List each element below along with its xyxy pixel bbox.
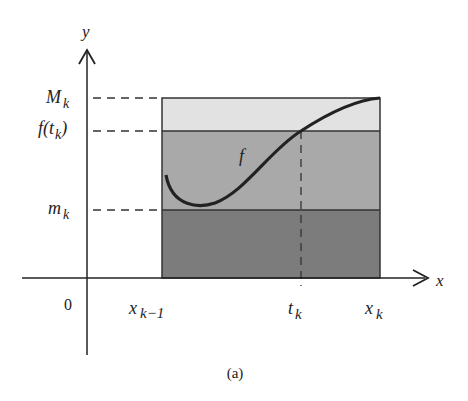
Mk-label: Mk — [45, 87, 70, 111]
f-tk-label: f(tk) — [38, 118, 67, 142]
lower-band — [162, 210, 380, 278]
x-axis-label: x — [435, 271, 444, 290]
upper-band — [162, 98, 380, 131]
mk-label: mk — [48, 198, 70, 222]
riemann-sum-diagram: y x 0 Mk f(tk) mk xk−1 tk xk f (a) — [0, 0, 468, 401]
middle-band — [162, 131, 380, 210]
origin-label: 0 — [64, 296, 72, 313]
figure-caption: (a) — [227, 365, 244, 382]
t-k-label: tk — [288, 298, 302, 322]
x-k-minus-1-label: xk−1 — [128, 298, 164, 321]
x-k-label: xk — [364, 298, 383, 322]
y-axis-label: y — [80, 22, 90, 41]
